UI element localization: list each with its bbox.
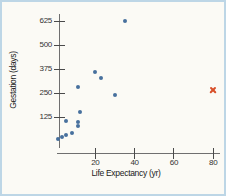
y-tick-label: 375 (24, 65, 52, 73)
x-tick-label: 20 (85, 159, 105, 167)
y-tick-label: 250 (24, 89, 52, 97)
data-point (64, 133, 68, 137)
x-tick-label: 60 (164, 159, 184, 167)
data-point (70, 131, 74, 135)
data-point (113, 93, 117, 97)
x-axis-line (57, 153, 220, 154)
y-tick-label: 625 (24, 17, 52, 25)
data-point (123, 19, 127, 23)
y-tick-mark (54, 21, 65, 22)
y-tick-label: 125 (24, 113, 52, 121)
highlighted-point-marker (209, 86, 217, 94)
y-tick-mark (54, 45, 65, 46)
data-point (78, 110, 82, 114)
data-point (76, 120, 80, 124)
data-point (99, 76, 103, 80)
y-tick-mark (54, 93, 65, 94)
y-axis-title: Gestation (days) (8, 20, 18, 140)
x-tick-label: 80 (203, 159, 223, 167)
gestation-scatterplot-figure: 12525037550062520406080 Gestation (days)… (0, 0, 226, 196)
y-tick-mark (54, 117, 65, 118)
x-tick-label: 40 (125, 159, 145, 167)
x-axis-title: Life Expectancy (yr) (46, 168, 206, 178)
data-point (64, 119, 68, 123)
y-tick-mark (54, 69, 65, 70)
y-tick-label: 500 (24, 41, 52, 49)
data-point (76, 85, 80, 89)
y-axis-line (59, 14, 60, 148)
data-point (76, 124, 80, 128)
data-point (93, 70, 97, 74)
